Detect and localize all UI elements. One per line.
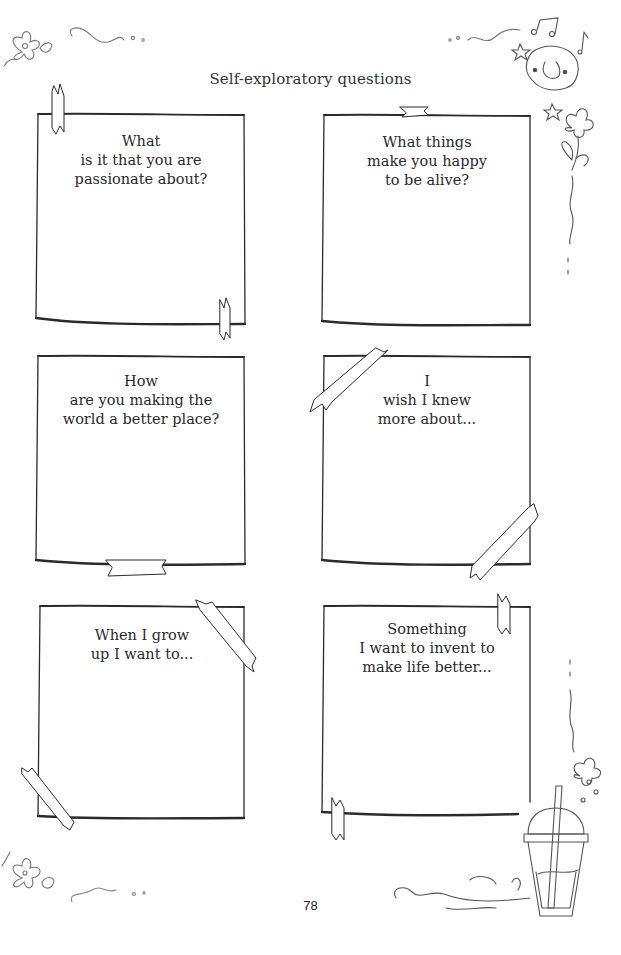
page-title: Self-exploratory questions [0, 70, 621, 88]
tape-icon [22, 768, 74, 830]
tape-icon [400, 107, 428, 117]
flower-icon [570, 660, 601, 802]
swirl-icon [70, 28, 144, 42]
flower-icon [4, 32, 52, 66]
flower-icon [2, 852, 54, 888]
question-text: Something I want to invent to make life … [322, 620, 532, 677]
question-card-passionate: What is it that you are passionate about… [36, 112, 246, 326]
swirl-icon [449, 29, 520, 41]
question-text: How are you making the world a better pl… [36, 372, 246, 429]
tape-icon [52, 84, 64, 134]
question-card-happy: What things make you happy to be alive? [322, 113, 532, 327]
question-text: I wish I knew more about... [322, 372, 532, 429]
question-text: When I grow up I want to... [38, 626, 246, 664]
question-text: What things make you happy to be alive? [322, 133, 532, 190]
bubble-tea-cup-icon [524, 786, 588, 916]
question-text: What is it that you are passionate about… [36, 132, 246, 189]
tape-icon [470, 504, 538, 580]
question-card-better-place: How are you making the world a better pl… [36, 354, 246, 568]
tape-icon [220, 298, 230, 340]
music-note-icon [532, 18, 589, 54]
question-card-invent: Something I want to invent to make life … [322, 604, 532, 818]
question-card-wish-knew: I wish I knew more about... [322, 354, 532, 568]
tape-icon [332, 798, 344, 840]
page-number: 78 [0, 898, 621, 913]
tape-icon [106, 560, 166, 576]
flower-icon [562, 109, 594, 274]
question-card-grow-up: When I grow up I want to... [38, 604, 246, 818]
